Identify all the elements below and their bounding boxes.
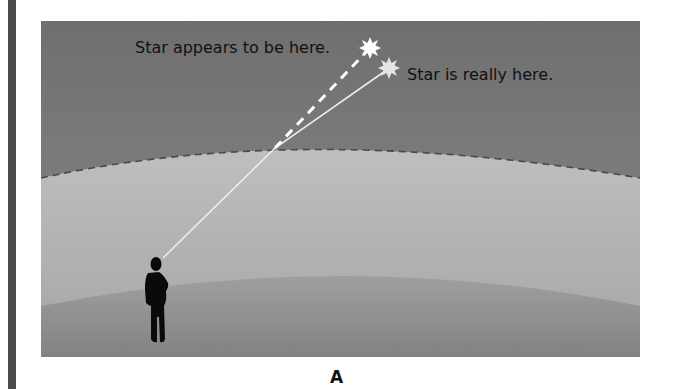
real-star-icon xyxy=(378,57,400,79)
real-star-label: Star is really here. xyxy=(407,65,553,84)
apparent-star-icon xyxy=(359,37,381,59)
figure-label: A xyxy=(0,367,673,387)
page-edge-bar xyxy=(8,0,16,389)
apparent-star-label: Star appears to be here. xyxy=(135,38,330,57)
